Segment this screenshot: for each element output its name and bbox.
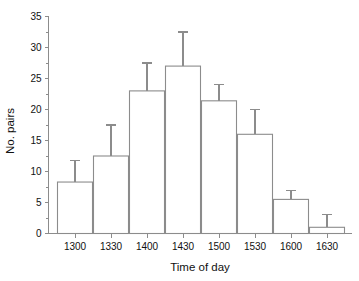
y-tick-label: 30 [30, 42, 42, 53]
x-tick-label-1500: 1500 [208, 241, 231, 252]
bar-1600 [274, 199, 309, 233]
x-tick-label-1400: 1400 [136, 241, 159, 252]
bar-1400 [130, 91, 165, 234]
bar-chart-canvas: 05101520253035 1300133014001430150015301… [0, 0, 359, 281]
x-tick-label-1430: 1430 [172, 241, 195, 252]
y-tick-label: 35 [30, 11, 42, 22]
bar-1500 [202, 101, 237, 234]
x-tick-label-1330: 1330 [100, 241, 123, 252]
y-tick-label: 25 [30, 73, 42, 84]
y-axis-title: No. pairs [4, 108, 16, 154]
y-tick-label: 10 [30, 166, 42, 177]
x-axis-title: Time of day [170, 261, 230, 273]
bar-1530 [238, 134, 273, 233]
chart-figure: 05101520253035 1300133014001430150015301… [0, 0, 359, 281]
y-tick-label: 5 [36, 197, 42, 208]
x-tick-label-1600: 1600 [280, 241, 303, 252]
bar-1430 [166, 66, 201, 233]
bar-1630 [310, 227, 345, 233]
x-tick-label-1300: 1300 [64, 241, 87, 252]
y-tick-label: 0 [36, 228, 42, 239]
bar-1330 [94, 156, 129, 234]
x-tick-label-1530: 1530 [244, 241, 267, 252]
bar-1300 [58, 182, 93, 233]
y-tick-label: 20 [30, 104, 42, 115]
y-tick-label: 15 [30, 135, 42, 146]
x-tick-label-1630: 1630 [316, 241, 339, 252]
